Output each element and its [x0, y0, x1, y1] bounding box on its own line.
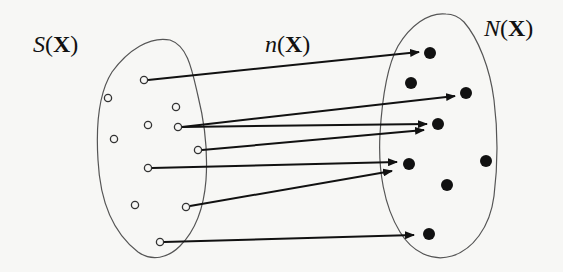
mapping-label: n(X)	[265, 31, 310, 57]
domain-points	[104, 76, 201, 245]
domain-point	[131, 201, 138, 208]
codomain-set-outline	[380, 14, 497, 258]
domain-point	[194, 146, 201, 153]
mapping-arrow	[182, 96, 455, 127]
domain-point	[174, 123, 181, 130]
codomain-point	[423, 228, 435, 240]
codomain-point	[480, 155, 492, 167]
domain-set-outline	[97, 39, 206, 257]
codomain-point	[441, 179, 453, 191]
mapping-arrow	[164, 235, 414, 242]
domain-point	[110, 135, 117, 142]
domain-point	[104, 94, 111, 101]
codomain-point	[424, 47, 436, 59]
domain-point	[140, 76, 147, 83]
domain-point	[144, 164, 151, 171]
mapping-arrow	[190, 171, 392, 206]
domain-set-label: S(X)	[33, 31, 78, 57]
diagram-canvas: S(X) n(X) N(X)	[0, 0, 563, 272]
codomain-point	[405, 77, 417, 89]
mapping-diagram: S(X) n(X) N(X)	[0, 0, 563, 272]
codomain-point	[432, 118, 444, 130]
domain-point	[172, 103, 179, 110]
mapping-arrow	[182, 124, 427, 127]
mapping-arrow	[152, 162, 397, 168]
codomain-points	[403, 47, 492, 240]
codomain-set-label: N(X)	[483, 15, 533, 41]
domain-point	[144, 121, 151, 128]
codomain-point	[460, 87, 472, 99]
codomain-point	[403, 158, 415, 170]
domain-point	[182, 203, 189, 210]
mapping-arrow	[202, 130, 424, 150]
domain-point	[156, 238, 163, 245]
